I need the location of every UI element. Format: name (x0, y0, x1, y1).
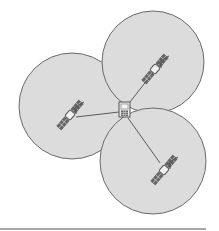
coverage-circle-bottom (100, 108, 206, 214)
trilateration-diagram (0, 0, 219, 231)
mobile-phone-icon (119, 102, 130, 117)
coverage-circle-top (102, 11, 204, 113)
